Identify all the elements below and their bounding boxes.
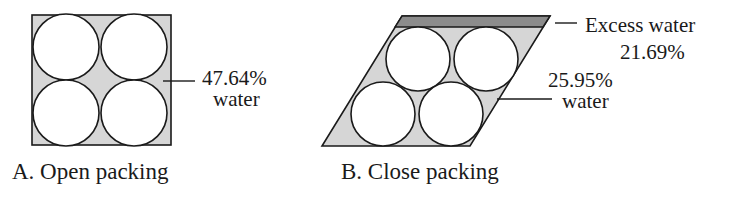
excess-water-label: Excess water: [585, 15, 695, 36]
open-packing-caption: A. Open packing: [12, 160, 169, 183]
close-packing-figure: [322, 16, 577, 146]
open-packing-figure: [32, 14, 195, 146]
close-water-percent: 25.95%: [548, 70, 613, 91]
excess-water-percent: 21.69%: [620, 42, 685, 63]
open-water-percent: 47.64%: [202, 68, 267, 89]
excess-water-band: [395, 16, 550, 27]
close-water-label: water: [562, 91, 609, 112]
close-packing-caption: B. Close packing: [341, 160, 499, 183]
open-water-label: water: [213, 89, 260, 110]
